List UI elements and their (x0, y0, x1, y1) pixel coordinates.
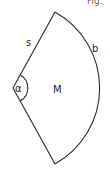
side-s-lower (13, 88, 55, 164)
label-s: s (26, 37, 31, 48)
side-s-upper (13, 12, 55, 88)
label-alpha: α (15, 83, 22, 94)
label-M: M (53, 84, 62, 95)
arc-b (55, 12, 100, 164)
sector-diagram: s b α M (0, 0, 110, 171)
label-b: b (92, 43, 98, 54)
